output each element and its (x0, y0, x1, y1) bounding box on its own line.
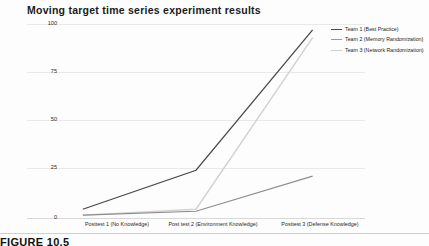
legend-item-team-1[interactable]: Team 1 (Best Practice) (331, 26, 427, 33)
legend-item-team-3[interactable]: Team 3 (Network Randomization) (331, 47, 427, 54)
legend-swatch-icon-team-1 (331, 29, 342, 30)
legend-label-team-3: Team 3 (Network Randomization) (345, 47, 424, 54)
chart-legend: Team 1 (Best Practice) Team 2 (Memory Ra… (331, 26, 427, 57)
figure-container: Moving target time series experiment res… (0, 0, 429, 246)
line-team-3 (83, 38, 313, 215)
legend-item-team-2[interactable]: Team 2 (Memory Randomization) (331, 36, 427, 43)
legend-label-team-2: Team 2 (Memory Randomization) (345, 36, 423, 43)
chart-title: Moving target time series experiment res… (27, 4, 261, 16)
figure-caption: FIGURE 10.5 (0, 236, 69, 246)
legend-swatch-icon-team-2 (331, 39, 342, 40)
series-lines (27, 24, 365, 219)
x-tick-posttest-3: Posttest 3 (Defense Knowledge) (230, 222, 410, 227)
legend-swatch-icon-team-3 (331, 50, 342, 51)
legend-label-team-1: Team 1 (Best Practice) (345, 26, 399, 33)
line-team-2 (83, 176, 313, 215)
line-team-1 (83, 30, 313, 209)
caption-divider (0, 233, 429, 234)
